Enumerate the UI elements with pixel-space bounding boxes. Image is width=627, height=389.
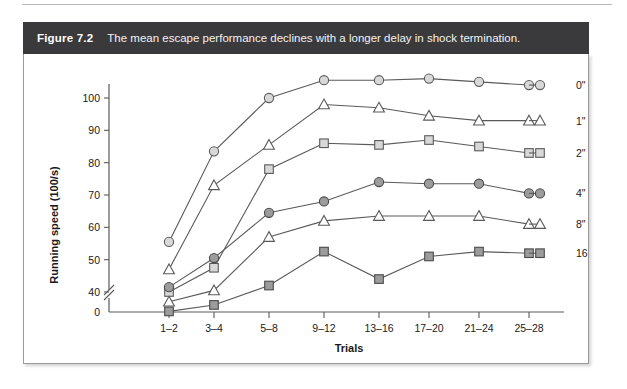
data-point-marker (265, 281, 274, 290)
x-tick-label: 13–16 (364, 322, 393, 334)
data-point-marker (474, 179, 483, 188)
x-tick-label: 17–20 (414, 322, 443, 334)
chart-series-group: 0"1"2"4"8"16" (164, 74, 588, 316)
x-tick-label: 1–2 (160, 322, 178, 334)
top-divider (22, 4, 612, 5)
legend-label: 2" (576, 147, 586, 159)
legend-label: 1" (576, 115, 586, 127)
data-point-marker (425, 252, 434, 261)
y-tick-label: 50 (88, 254, 100, 266)
data-point-marker (264, 139, 275, 149)
data-point-marker (209, 253, 218, 262)
y-tick-label-zero: 0 (94, 306, 100, 318)
y-tick-label: 80 (88, 157, 100, 169)
data-point-marker (164, 237, 173, 246)
data-point-marker (425, 136, 434, 145)
x-tick-label: 21–24 (464, 322, 493, 334)
data-point-marker (210, 301, 219, 310)
series-line (169, 182, 529, 287)
legend-label: 16" (576, 247, 588, 259)
y-tick-label: 70 (88, 189, 100, 201)
data-point-marker (535, 80, 544, 89)
y-axis-ticks: 4050607080901000 (82, 92, 109, 318)
data-point-marker (165, 307, 174, 316)
data-point-marker (474, 77, 483, 86)
running-speed-line-chart: 4050607080901000Running speed (100/s)1–2… (24, 54, 588, 362)
x-tick-label: 5–8 (260, 322, 278, 334)
data-point-marker (164, 264, 175, 274)
data-point-marker (265, 165, 274, 174)
x-axis-title: Trials (335, 342, 364, 354)
data-point-marker (319, 197, 328, 206)
data-point-marker (320, 139, 329, 148)
data-point-marker (475, 247, 484, 256)
x-tick-label: 25–28 (514, 322, 543, 334)
legend-label: 0" (576, 79, 586, 91)
data-point-marker (264, 93, 273, 102)
series-8in: 8" (164, 211, 586, 306)
y-axis-title: Running speed (100/s) (48, 166, 60, 284)
data-point-marker (319, 76, 328, 85)
data-point-marker (536, 149, 545, 158)
data-point-marker (536, 249, 545, 258)
data-point-marker (210, 263, 219, 272)
data-point-marker (209, 147, 218, 156)
figure-container: Figure 7.2 The mean escape performance d… (0, 0, 627, 389)
data-point-marker (375, 275, 384, 284)
y-tick-label: 40 (88, 286, 100, 298)
figure-number: Figure 7.2 (37, 32, 93, 44)
figure-caption-text: The mean escape performance declines wit… (107, 32, 520, 44)
y-tick-label: 90 (88, 124, 100, 136)
x-tick-label: 9–12 (312, 322, 336, 334)
data-point-marker (424, 74, 433, 83)
data-point-marker (375, 141, 384, 150)
data-point-marker (264, 208, 273, 217)
data-point-marker (320, 247, 329, 256)
data-point-marker (209, 180, 220, 190)
data-point-marker (374, 76, 383, 85)
series-line (169, 216, 529, 302)
data-point-marker (374, 177, 383, 186)
chart-area: 4050607080901000Running speed (100/s)1–2… (24, 54, 588, 363)
x-axis-ticks: 1–23–45–89–1213–1617–2021–2425–28 (160, 312, 544, 334)
data-point-marker (424, 179, 433, 188)
x-tick-label: 3–4 (205, 322, 223, 334)
data-point-marker (535, 189, 544, 198)
legend-label: 4" (576, 187, 586, 199)
legend-label: 8" (576, 218, 586, 230)
figure-caption-bar: Figure 7.2 The mean escape performance d… (23, 22, 589, 54)
data-point-marker (475, 142, 484, 151)
series-16in: 16" (165, 247, 588, 316)
y-tick-label: 100 (82, 92, 100, 104)
data-point-marker (319, 99, 330, 109)
chart-panel: 4050607080901000Running speed (100/s)1–2… (23, 54, 589, 364)
data-point-marker (164, 283, 173, 292)
y-tick-label: 60 (88, 221, 100, 233)
